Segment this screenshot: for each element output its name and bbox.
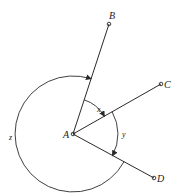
label-angle-x: x — [96, 105, 101, 114]
angle-diagram: A B C D x y z — [0, 0, 176, 195]
arc-z — [15, 76, 124, 192]
label-c: C — [164, 79, 171, 90]
arc-x — [84, 100, 104, 116]
label-b: B — [109, 10, 115, 21]
ray-ab — [73, 24, 109, 134]
label-d: D — [156, 173, 165, 184]
ray-ad — [73, 134, 154, 178]
label-angle-y: y — [121, 130, 126, 139]
label-angle-z: z — [8, 133, 13, 142]
label-a: A — [62, 129, 70, 140]
arc-y — [112, 112, 118, 156]
